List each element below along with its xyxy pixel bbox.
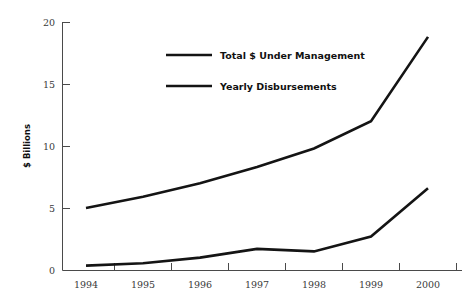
x-tick-label-1999: 1999 [359, 279, 383, 290]
chart-canvas: 20 15 10 5 0 $ Billions 1994 1995 1996 1… [0, 0, 476, 308]
y-tick-label-5: 5 [49, 203, 55, 214]
y-tick-label-0: 0 [49, 265, 55, 276]
legend-entry-total-under-management: Total $ Under Management [166, 50, 365, 61]
x-tick-label-2000: 2000 [416, 279, 440, 290]
x-tick-label-1994: 1994 [74, 279, 98, 290]
x-tick-label-1996: 1996 [188, 279, 212, 290]
series-line-yearly-disbursements [86, 188, 428, 266]
y-axis: 20 15 10 5 0 $ Billions [22, 17, 70, 276]
x-tick-label-1998: 1998 [302, 279, 326, 290]
y-tick-label-10: 10 [43, 141, 55, 152]
x-tick-label-1995: 1995 [131, 279, 155, 290]
line-chart: 20 15 10 5 0 $ Billions 1994 1995 1996 1… [0, 0, 476, 308]
legend-label-0: Total $ Under Management [220, 50, 365, 61]
x-axis: 1994 1995 1996 1997 1998 1999 2000 [63, 263, 463, 290]
chart-legend: Total $ Under Management Yearly Disburse… [166, 50, 365, 92]
y-tick-label-20: 20 [43, 17, 55, 28]
legend-label-1: Yearly Disbursements [219, 81, 337, 92]
y-tick-label-15: 15 [43, 79, 55, 90]
y-axis-title: $ Billions [22, 124, 32, 168]
plot-area [86, 37, 428, 266]
series-line-total-under-management [86, 37, 428, 208]
x-tick-label-1997: 1997 [245, 279, 269, 290]
legend-entry-yearly-disbursements: Yearly Disbursements [166, 81, 337, 92]
